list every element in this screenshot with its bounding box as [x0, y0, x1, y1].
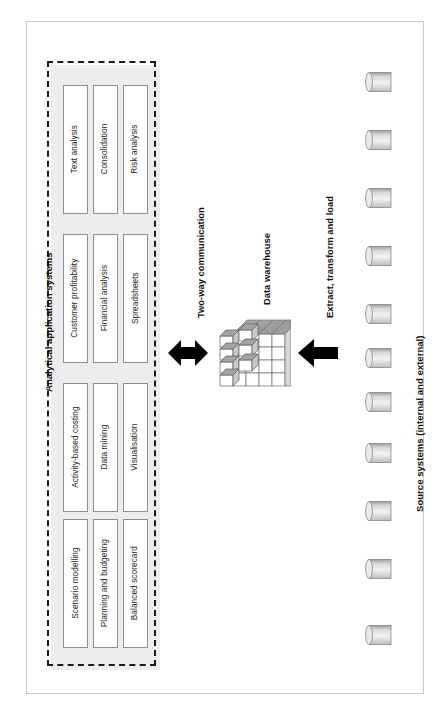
app-box-financial-analysis[interactable]: Financial analysis [93, 234, 118, 363]
double-headed-arrow-icon [168, 336, 208, 370]
database-cylinder-icon [365, 392, 395, 412]
app-box-label: Risk analysis [131, 125, 139, 174]
app-box-label: Customer profitability [71, 259, 79, 338]
app-box-label: Scenario modelling [71, 548, 79, 619]
app-box-planning-and-budgeting[interactable]: Planning and budgeting [93, 519, 118, 648]
app-box-label: Financial analysis [101, 265, 109, 331]
database-cylinder-icon [365, 188, 395, 208]
left-arrow-icon [298, 337, 338, 369]
database-cylinder-icon [365, 501, 395, 521]
source-system-1[interactable] [365, 72, 395, 92]
app-box-label: Spreadsheets [131, 273, 139, 325]
app-box-risk-analysis[interactable]: Risk analysis [123, 85, 148, 214]
source-system-10[interactable] [365, 559, 395, 579]
database-cylinder-icon [365, 130, 395, 150]
diagram-page: Analytical application systems Text anal… [0, 0, 443, 711]
source-system-8[interactable] [365, 443, 395, 463]
data-warehouse-label: Data warehouse [262, 233, 271, 305]
source-system-7[interactable] [365, 392, 395, 412]
app-box-balanced-scorecard[interactable]: Balanced scorecard [123, 519, 148, 648]
source-system-2[interactable] [365, 130, 395, 150]
app-box-label: Planning and budgeting [101, 539, 109, 627]
database-cylinder-icon [365, 443, 395, 463]
app-box-label: Visualisation [131, 424, 139, 471]
app-box-label: Consolidation [101, 124, 109, 175]
source-system-9[interactable] [365, 501, 395, 521]
source-system-6[interactable] [365, 348, 395, 368]
app-box-spreadsheets[interactable]: Spreadsheets [123, 234, 148, 363]
two-way-communication-arrow [168, 336, 208, 370]
app-box-data-mining[interactable]: Data mining [93, 383, 118, 512]
source-system-4[interactable] [365, 246, 395, 266]
etl-label: Extract, transform and load [325, 196, 334, 318]
source-systems-column [362, 0, 402, 711]
source-systems-heading: Source systems (internal and external) [415, 336, 425, 512]
database-cylinder-icon [365, 625, 395, 645]
app-box-label: Text analysis [71, 125, 79, 173]
app-box-label: Data mining [101, 425, 109, 470]
database-cylinder-icon [365, 304, 395, 324]
app-box-consolidation[interactable]: Consolidation [93, 85, 118, 214]
source-system-11[interactable] [365, 625, 395, 645]
database-cylinder-icon [365, 246, 395, 266]
source-system-5[interactable] [365, 304, 395, 324]
database-cylinder-icon [365, 72, 395, 92]
app-box-customer-profitability[interactable]: Customer profitability [63, 234, 88, 363]
data-cube-icon [219, 312, 291, 394]
app-box-activity-based-costing[interactable]: Activity-based costing [63, 383, 88, 512]
app-box-label: Activity-based costing [71, 407, 79, 488]
database-cylinder-icon [365, 348, 395, 368]
app-box-visualisation[interactable]: Visualisation [123, 383, 148, 512]
database-cylinder-icon [365, 559, 395, 579]
app-box-text-analysis[interactable]: Text analysis [63, 85, 88, 214]
source-system-3[interactable] [365, 188, 395, 208]
analytical-application-systems-heading: Analytical application systems [44, 252, 54, 392]
app-box-label: Balanced scorecard [131, 546, 139, 620]
etl-arrow [298, 337, 338, 369]
two-way-communication-label: Two-way communication [196, 207, 205, 318]
app-box-scenario-modelling[interactable]: Scenario modelling [63, 519, 88, 648]
data-warehouse-cube[interactable] [219, 312, 291, 394]
